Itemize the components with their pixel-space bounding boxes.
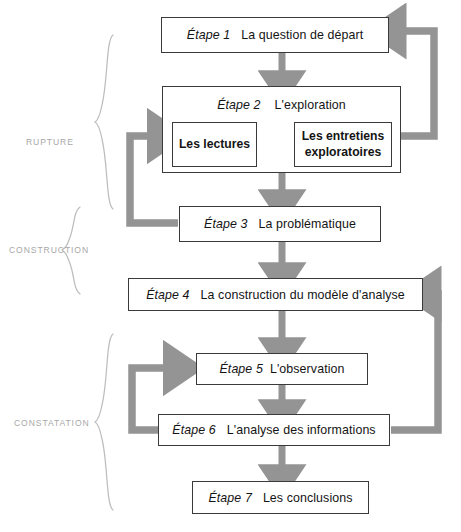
stage-number-etape5: Étape 5 — [219, 362, 262, 376]
stage-text-etape5: L'observation — [270, 362, 345, 376]
stage-label-etape5: Étape 5 L'observation — [219, 362, 344, 376]
stage-label-etape4: Étape 4 La construction du modèle d'anal… — [146, 288, 405, 302]
stage-box-etape5[interactable]: Étape 5 L'observation — [196, 353, 368, 385]
stage-label-etape6: Étape 6 L'analyse des informations — [172, 423, 375, 437]
stage-text-etape4: La construction du modèle d'analyse — [201, 288, 405, 302]
substage-box-entretiens[interactable]: Les entretiens exploratoires — [294, 122, 392, 167]
stage-text-etape1: La question de départ — [241, 28, 363, 42]
phase-label-rupture: RUPTURE — [26, 137, 74, 147]
stage-box-etape1[interactable]: Étape 1 La question de départ — [161, 17, 389, 53]
feedback-e6-to-e4 — [391, 294, 438, 430]
stage-box-etape2[interactable]: Étape 2 L'exploration Les lectures Les e… — [162, 86, 401, 173]
stage-text-etape2: L'exploration — [275, 98, 346, 112]
substage-box-lectures[interactable]: Les lectures — [172, 122, 257, 167]
stage-number-etape1: Étape 1 — [187, 28, 230, 42]
stage-label-etape2: Étape 2 L'exploration — [163, 98, 400, 112]
stage-box-etape3[interactable]: Étape 3 La problématique — [179, 206, 381, 242]
stage-box-etape6[interactable]: Étape 6 L'analyse des informations — [158, 414, 390, 446]
stage-text-etape3: La problématique — [259, 217, 356, 231]
stage-box-etape4[interactable]: Étape 4 La construction du modèle d'anal… — [128, 278, 423, 311]
flowchart-diagram: RUPTURE CONSTRUCTION CONSTATATION Étape … — [0, 0, 461, 532]
brace-rupture — [95, 35, 113, 209]
stage-box-etape7[interactable]: Étape 7 Les conclusions — [192, 481, 369, 514]
stage-number-etape7: Étape 7 — [208, 491, 251, 505]
substage-text-entretiens: Les entretiens exploratoires — [299, 129, 387, 160]
stage-label-etape1: Étape 1 La question de départ — [187, 28, 363, 42]
stage-number-etape6: Étape 6 — [172, 423, 215, 437]
connector-layer — [0, 0, 461, 532]
brace-constatation — [95, 334, 113, 510]
phase-label-construction: CONSTRUCTION — [9, 245, 89, 255]
stage-number-etape4: Étape 4 — [146, 288, 189, 302]
stage-label-etape7: Étape 7 Les conclusions — [208, 491, 352, 505]
stage-number-etape3: Étape 3 — [204, 217, 247, 231]
phase-braces — [62, 35, 113, 510]
stage-label-etape3: Étape 3 La problématique — [204, 217, 356, 231]
stage-text-etape6: L'analyse des informations — [227, 423, 376, 437]
phase-label-constatation: CONSTATATION — [14, 418, 90, 428]
stage-text-etape7: Les conclusions — [263, 491, 353, 505]
substage-text-lectures: Les lectures — [179, 137, 250, 153]
stage-number-etape2: Étape 2 — [217, 98, 260, 112]
